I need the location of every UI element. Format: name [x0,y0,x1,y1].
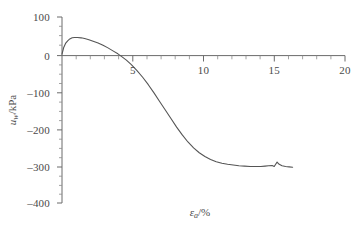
x-tick-label-5: 5 [130,64,136,76]
x-axis-title: εa/% [190,206,211,218]
x-tick-label-20: 20 [339,64,350,76]
y-tick-label-minus-100: –100 [14,87,50,99]
y-axis-title-unit: /kPa [6,95,18,115]
x-tick-label-10: 10 [198,64,209,76]
x-axis-title-unit: /% [198,206,210,218]
x-major-ticks [133,56,345,62]
x-axis-title-subscript: a [194,211,198,220]
x-tick-label-15: 15 [269,64,280,76]
y-tick-label-0: 0 [14,50,50,62]
y-tick-label-100: 100 [14,11,50,23]
plot-canvas [0,0,363,237]
y-tick-label-minus-200: –200 [14,124,50,136]
y-tick-label-minus-300: –300 [14,161,50,173]
data-series-line [62,37,293,167]
y-axis-title-subscript: w [11,114,20,119]
y-axis-title: uw/kPa [6,95,18,125]
y-axis-title-symbol: u [6,120,18,126]
chart-figure: 100 0 –100 –200 –300 –400 5 10 15 20 uw/… [0,0,363,237]
y-tick-label-minus-400: –400 [14,197,50,209]
